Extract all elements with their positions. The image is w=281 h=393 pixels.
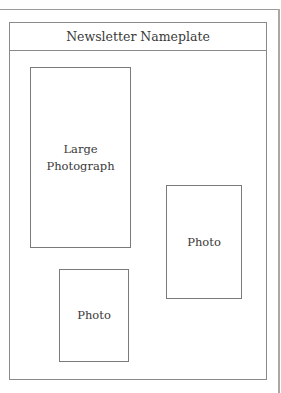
nameplate-label: Newsletter Nameplate: [66, 29, 210, 44]
newsletter-nameplate: Newsletter Nameplate: [10, 23, 266, 51]
photo-placeholder-right: Photo: [166, 185, 242, 299]
large-photograph-placeholder: Large Photograph: [30, 67, 131, 248]
large-photograph-label: Large Photograph: [46, 141, 114, 175]
photo-right-label: Photo: [187, 234, 221, 251]
large-photograph-label-line-2: Photograph: [46, 158, 114, 175]
outer-frame-right-border: [278, 9, 280, 393]
newsletter-page-layout: Newsletter Nameplate Large Photograph Ph…: [9, 22, 267, 380]
photo-bottom-label: Photo: [77, 307, 111, 324]
outer-frame-top-border: [0, 9, 279, 10]
large-photograph-label-line-1: Large: [46, 141, 114, 158]
photo-placeholder-bottom: Photo: [59, 269, 129, 362]
